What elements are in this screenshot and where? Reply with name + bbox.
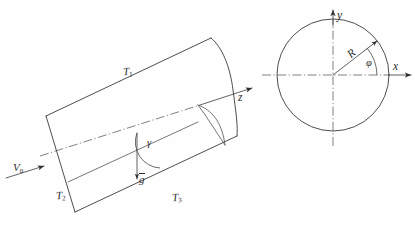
figure-canvas: T1 T2 T3 V0 g γ z y x R φ [0, 0, 415, 231]
label-temperature-bottom-wall: T3 [172, 192, 182, 205]
cylinder-bottom-edge [75, 136, 237, 212]
label-temperature-top-wall: T1 [123, 66, 133, 79]
cylinder-right-rim-near [198, 105, 225, 145]
label-x-axis: x [393, 61, 398, 73]
label-y-axis: y [337, 10, 342, 22]
label-temperature-top-wall-subscript: 1 [129, 70, 133, 78]
angle-arc-ref-line [160, 120, 161, 168]
label-temperature-left-end-subscript: 2 [62, 194, 66, 202]
label-velocity-subscript: 0 [20, 167, 24, 175]
velocity-vector-line [6, 166, 44, 178]
cylinder-axis-dashdot [40, 105, 200, 156]
label-inclination-angle: γ [147, 138, 151, 149]
label-temperature-bottom-wall-subscript: 3 [178, 196, 182, 204]
label-z-axis: z [238, 92, 242, 104]
cross-section-diagram [262, 10, 411, 146]
label-temperature-left-end: T2 [56, 190, 66, 203]
z-axis-line [200, 88, 252, 105]
label-gravity-vector: g [139, 170, 145, 186]
cylinder-right-rim-far [211, 38, 237, 136]
velocity-vector [6, 166, 44, 178]
label-polar-angle: φ [366, 58, 372, 69]
label-gravity-vector-symbol: g [139, 174, 145, 185]
label-velocity-symbol: V [13, 161, 20, 173]
label-velocity: V0 [13, 162, 23, 175]
cylinder-inner-generatrix [68, 122, 198, 182]
